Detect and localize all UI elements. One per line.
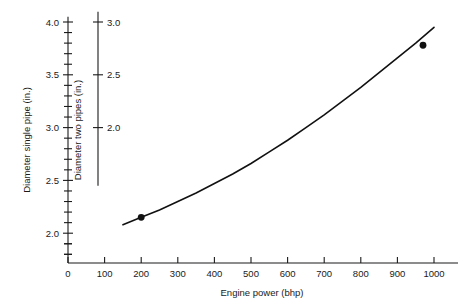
engine-power-pipe-diameter-chart: 01002003004005006007008009001000 2.02.53… — [0, 0, 460, 303]
data-curve — [123, 27, 434, 224]
x-axis: 01002003004005006007008009001000 — [65, 257, 458, 279]
x-tick-label: 900 — [389, 268, 405, 279]
chart-container: 01002003004005006007008009001000 2.02.53… — [0, 0, 460, 303]
data-point-marker — [420, 42, 427, 49]
y2-tick-label: 3.0 — [107, 17, 120, 28]
curve-path — [123, 27, 434, 224]
y-tick-label: 3.5 — [46, 69, 59, 80]
y-tick-label: 4.0 — [46, 17, 59, 28]
x-tick-label: 0 — [65, 268, 70, 279]
x-tick-label: 100 — [97, 268, 113, 279]
y-tick-label: 3.0 — [46, 122, 59, 133]
x-tick-label: 500 — [243, 268, 259, 279]
x-tick-label: 300 — [170, 268, 186, 279]
y-axis-title-two-pipes: Diameter two pipes (in.) — [72, 80, 83, 180]
x-tick-label: 400 — [206, 268, 222, 279]
y-axis-title-single-pipe: Diameter single pipe (in.) — [21, 87, 32, 193]
y-axis-two-pipes: 2.02.53.0 — [93, 12, 120, 186]
x-tick-label: 700 — [316, 268, 332, 279]
x-tick-label: 800 — [353, 268, 369, 279]
x-tick-label: 200 — [133, 268, 149, 279]
x-tick-label: 600 — [280, 268, 296, 279]
data-point-marker — [138, 214, 145, 221]
x-tick-label: 1000 — [423, 268, 444, 279]
y2-tick-label: 2.0 — [107, 122, 120, 133]
x-axis-title: Engine power (bhp) — [221, 287, 304, 298]
y2-tick-label: 2.5 — [107, 69, 120, 80]
y-axis-single-pipe: 2.02.53.03.54.0 — [46, 17, 73, 264]
y-tick-label: 2.0 — [46, 228, 59, 239]
y-tick-label: 2.5 — [46, 175, 59, 186]
